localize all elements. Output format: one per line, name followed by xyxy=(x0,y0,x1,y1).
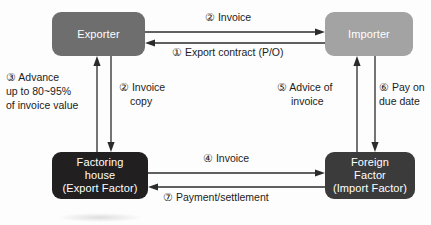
label-step-5-advice-of-invoice-line-1: ⑤ Advice of xyxy=(277,81,333,95)
node-foreign-factor-line-3: (Import Factor) xyxy=(333,182,407,195)
label-step-2-invoice-copy-line-1: ② Invoice xyxy=(119,81,165,95)
label-step-2-invoice: ② Invoice xyxy=(205,11,251,25)
label-step-4-invoice-line-1: ④ Invoice xyxy=(203,152,249,166)
node-foreign-factor[interactable]: Foreign Factor (Import Factor) xyxy=(325,152,415,199)
label-step-1-export-contract-line-1: ① Export contract (P/O) xyxy=(172,46,284,60)
node-factoring-house[interactable]: Factoring house (Export Factor) xyxy=(52,152,148,199)
label-step-3-advance-line-3: of invoice value xyxy=(6,99,78,113)
node-exporter-line-1: Exporter xyxy=(77,28,119,41)
label-step-2-invoice-copy-line-2: copy xyxy=(119,95,165,109)
node-foreign-factor-line-1: Foreign xyxy=(351,156,389,169)
label-step-7-payment-settlement: ⑦ Payment/settlement xyxy=(163,191,269,205)
factoring-flow-diagram: Exporter Importer Factoring house (Expor… xyxy=(0,0,431,225)
node-factoring-house-line-3: (Export Factor) xyxy=(63,182,138,195)
node-importer[interactable]: Importer xyxy=(325,12,413,56)
node-factoring-house-line-1: Factoring xyxy=(77,156,124,169)
label-step-5-advice-of-invoice: ⑤ Advice of invoice xyxy=(277,81,333,109)
node-factoring-house-line-2: house xyxy=(85,169,115,182)
label-step-6-pay-on-due-date-line-2: due date xyxy=(379,95,425,109)
label-step-3-advance-line-2: up to 80~95% xyxy=(6,85,78,99)
label-step-4-invoice: ④ Invoice xyxy=(203,152,249,166)
arrow-factoring-house-to-exporter xyxy=(92,56,102,152)
label-step-2-invoice-line-1: ② Invoice xyxy=(205,11,251,25)
label-step-5-advice-of-invoice-line-2: invoice xyxy=(277,95,333,109)
arrow-factoring-house-to-foreign-factor xyxy=(148,168,325,178)
label-step-7-payment-settlement-line-1: ⑦ Payment/settlement xyxy=(163,191,269,205)
node-exporter[interactable]: Exporter xyxy=(52,12,145,56)
scan-artifact xyxy=(58,213,142,222)
arrow-exporter-to-factoring-house xyxy=(106,56,116,152)
arrow-exporter-to-importer xyxy=(145,27,325,37)
node-importer-line-1: Importer xyxy=(348,28,390,41)
label-step-6-pay-on-due-date-line-1: ⑥ Pay on xyxy=(379,81,425,95)
label-step-3-advance: ③ Advance up to 80~95% of invoice value xyxy=(6,71,78,113)
arrow-foreign-factor-to-importer xyxy=(352,56,362,152)
node-foreign-factor-line-2: Factor xyxy=(354,169,386,182)
label-step-3-advance-line-1: ③ Advance xyxy=(6,71,78,85)
label-step-6-pay-on-due-date: ⑥ Pay on due date xyxy=(379,81,425,109)
label-step-2-invoice-copy: ② Invoice copy xyxy=(119,81,165,109)
label-step-1-export-contract: ① Export contract (P/O) xyxy=(172,46,284,60)
